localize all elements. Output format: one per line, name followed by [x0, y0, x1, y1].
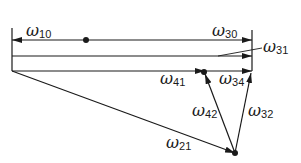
w31-leader: [218, 48, 262, 56]
vector-diagram: ω10 ω30 ω31 ω41 ω34 ω42 ω32 ω21: [0, 0, 301, 163]
label-w32: ω32: [248, 101, 273, 120]
label-w10: ω10: [26, 21, 51, 40]
label-w34: ω34: [219, 69, 244, 88]
pole-dot-mid: [201, 69, 207, 75]
label-w31: ω31: [263, 37, 288, 56]
label-w41: ω41: [160, 69, 185, 88]
pole-dot-top: [83, 37, 89, 43]
label-w30: ω30: [212, 21, 237, 40]
label-w42: ω42: [192, 101, 217, 120]
pole-dot-bottom: [232, 150, 238, 156]
